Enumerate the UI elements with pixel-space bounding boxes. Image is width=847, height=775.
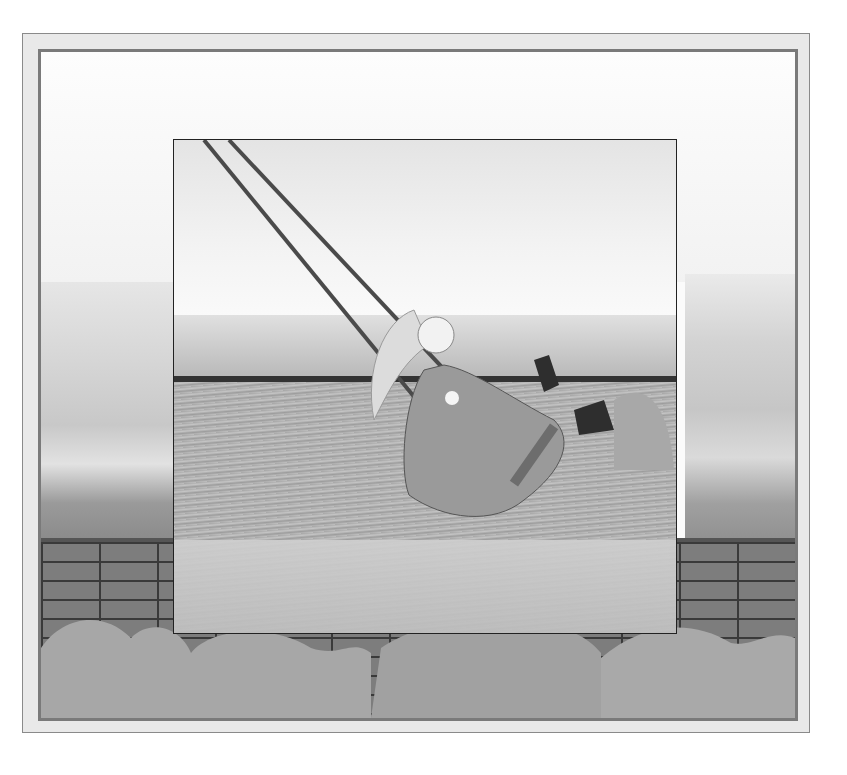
left-countryside-hills — [41, 282, 176, 542]
right-countryside-hills — [685, 274, 795, 544]
hand — [445, 391, 459, 405]
boot-lower — [574, 400, 614, 435]
head — [418, 317, 454, 353]
child-on-swing — [174, 140, 676, 633]
illustration-canvas: Pencil illustration of a child with long… — [0, 0, 847, 775]
boot-upper — [534, 355, 559, 392]
right-bush — [614, 393, 674, 470]
image-alt-text: Pencil illustration of a child with long… — [0, 0, 1, 1]
central-picture-panel — [173, 139, 677, 634]
